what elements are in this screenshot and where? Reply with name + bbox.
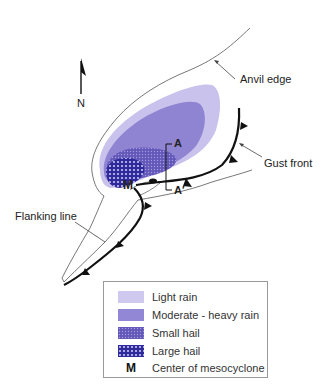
anvil-edge-pointer: [215, 61, 235, 79]
flanking-line-barb: [144, 202, 152, 210]
large-hail-swatch: [118, 345, 144, 357]
flanking-line-label: Flanking line: [15, 210, 77, 222]
gust-front-barb: [240, 122, 248, 130]
gust-front-pointer-head: [239, 143, 244, 147]
gust-front-bulge: [149, 179, 157, 184]
light-rain-swatch: [118, 291, 144, 303]
gust-front-pointer: [240, 144, 262, 157]
legend-label: Small hail: [152, 327, 200, 339]
section-end-label: A′: [174, 184, 185, 196]
mesocyclone-marker: M: [123, 178, 133, 192]
legend-item-small-hail: Small hail: [118, 327, 200, 339]
north-label: N: [77, 97, 85, 109]
anvil-edge-label: Anvil edge: [240, 73, 291, 85]
north-arrow-head: [81, 58, 86, 76]
legend-label: Large hail: [152, 345, 200, 357]
legend-item-large-hail: Large hail: [118, 345, 200, 357]
legend: Light rain Moderate - heavy rain Small h…: [103, 281, 268, 378]
legend-label: Center of mesocyclone: [152, 362, 265, 374]
legend-item-light-rain: Light rain: [118, 291, 197, 303]
moderate-heavy-rain-swatch: [118, 309, 144, 321]
section-start-label: A: [174, 137, 182, 149]
legend-item-mesocyclone: M Center of mesocyclone: [118, 362, 265, 374]
flanking-line-pointer: [75, 222, 105, 242]
legend-item-moderate-heavy-rain: Moderate - heavy rain: [118, 309, 259, 321]
small-hail-swatch: [118, 327, 144, 339]
legend-label: Moderate - heavy rain: [152, 309, 259, 321]
gust-front-barb: [229, 155, 238, 163]
gust-front-label: Gust front: [264, 157, 312, 169]
mesocyclone-symbol: M: [118, 361, 144, 375]
legend-label: Light rain: [152, 291, 197, 303]
